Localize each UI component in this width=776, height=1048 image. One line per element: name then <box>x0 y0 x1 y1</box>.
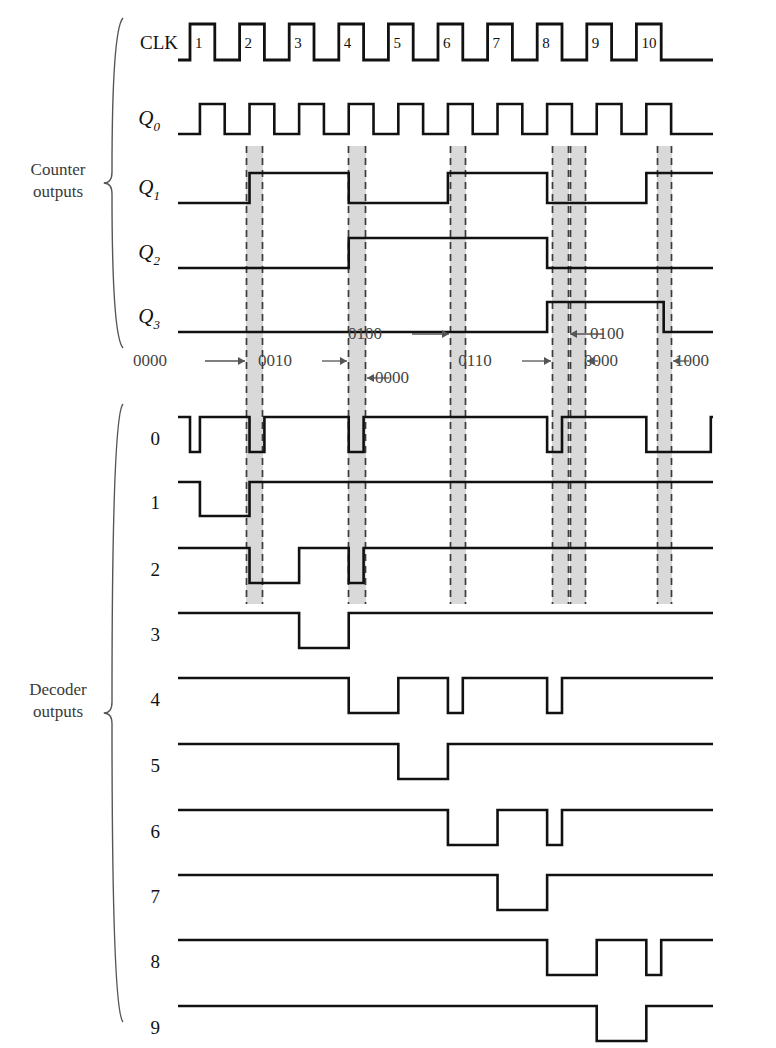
state-annotation: 0000 <box>584 351 618 370</box>
clock-pulse-number-7: 7 <box>493 35 501 51</box>
signal-label-decoder-8: 8 <box>151 951 161 972</box>
signal-label-decoder-3: 3 <box>151 624 161 645</box>
signal-label-decoder-5: 5 <box>151 755 161 776</box>
state-annotation-value: 0100 <box>348 324 382 343</box>
glitch-band <box>348 146 366 604</box>
state-annotation-value: 0010 <box>258 351 292 370</box>
glitch-band <box>552 146 569 604</box>
glitch-band <box>657 146 672 604</box>
clock-pulse-number-4: 4 <box>344 35 352 51</box>
state-annotation: 1000 <box>673 351 709 370</box>
signal-label-decoder-6: 6 <box>151 821 161 842</box>
signal-label-clk: CLK <box>140 32 178 53</box>
clock-pulse-number-3: 3 <box>294 35 302 51</box>
signal-label-decoder-4: 4 <box>151 689 161 710</box>
signal-label-decoder-1: 1 <box>151 492 161 513</box>
signal-label-decoder-0: 0 <box>151 428 161 449</box>
glitch-band <box>570 146 586 604</box>
clock-pulse-number-10: 10 <box>641 35 656 51</box>
glitch-band <box>450 146 466 604</box>
state-annotation-value: 0000 <box>133 351 167 370</box>
clock-pulse-number-9: 9 <box>592 35 600 51</box>
state-annotation-value: 0110 <box>458 351 491 370</box>
clock-pulse-number-8: 8 <box>542 35 550 51</box>
glitch-band <box>246 146 263 604</box>
timing-diagram: CounteroutputsDecoderoutputsCLKQ0Q1Q2Q30… <box>0 0 776 1048</box>
signal-label-decoder-7: 7 <box>151 886 161 907</box>
clock-pulse-number-1: 1 <box>195 35 203 51</box>
clock-pulse-number-2: 2 <box>245 35 253 51</box>
clock-pulse-number-5: 5 <box>393 35 401 51</box>
signal-label-decoder-2: 2 <box>151 559 161 580</box>
clock-pulse-number-6: 6 <box>443 35 451 51</box>
signal-label-decoder-9: 9 <box>151 1017 161 1038</box>
